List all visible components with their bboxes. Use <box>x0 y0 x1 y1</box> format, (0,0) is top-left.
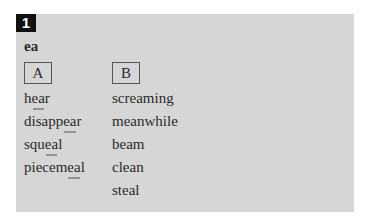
column-a-label: A <box>24 62 52 84</box>
column-b-label: B <box>112 62 140 84</box>
word-b-3: beam <box>112 136 144 153</box>
word-a-2: disappear <box>24 113 82 130</box>
word-b-4: clean <box>112 159 144 176</box>
highlighted-ea: ea <box>63 113 76 129</box>
highlighted-ea: ea <box>45 136 58 152</box>
word-prefix: h <box>24 90 32 106</box>
word-a-3: squeal <box>24 136 62 153</box>
word-suffix: l <box>58 136 62 152</box>
word-a-1: hear <box>24 90 50 107</box>
word-prefix: disapp <box>24 113 63 129</box>
word-prefix: piecem <box>24 159 67 175</box>
word-suffix: r <box>45 90 50 106</box>
word-b-1: screaming <box>112 90 174 107</box>
word-suffix: l <box>81 159 85 175</box>
word-a-4: piecemeal <box>24 159 85 176</box>
highlighted-ea: ea <box>67 159 80 175</box>
highlighted-ea: ea <box>32 90 45 106</box>
word-suffix: r <box>77 113 82 129</box>
exercise-heading: ea <box>24 38 38 55</box>
word-b-5: steal <box>112 182 140 199</box>
exercise-number-badge: 1 <box>16 14 36 32</box>
word-b-2: meanwhile <box>112 113 178 130</box>
word-prefix: squ <box>24 136 45 152</box>
